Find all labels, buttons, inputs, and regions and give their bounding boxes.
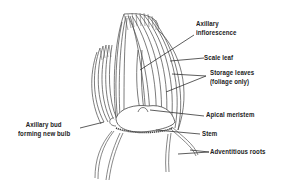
bulb-diagram: Axillary inflorescence Scale leaf Storag… xyxy=(0,0,283,191)
label-axillary-inflorescence: Axillary inflorescence xyxy=(196,20,236,37)
label-apical-meristem: Apical meristem xyxy=(206,111,254,120)
label-axillary-bud: Axillary bud forming new bulb xyxy=(18,121,70,138)
bulb-illustration xyxy=(0,0,283,191)
label-adventitious-roots: Adventitious roots xyxy=(210,148,266,157)
label-scale-leaf: Scale leaf xyxy=(204,54,233,63)
label-storage-leaves: Storage leaves (foliage only) xyxy=(210,69,254,86)
label-stem: Stem xyxy=(202,130,217,139)
